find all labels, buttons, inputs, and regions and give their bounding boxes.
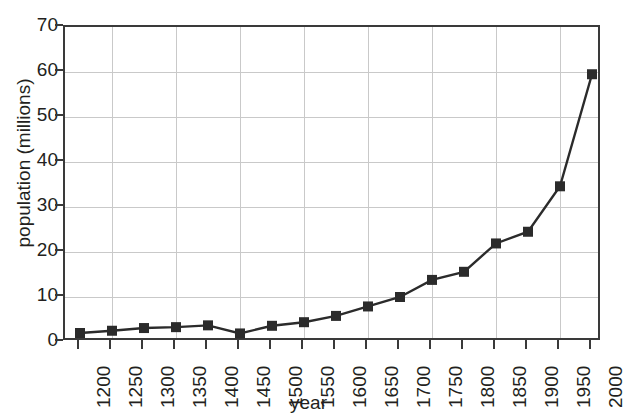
- y-tick-mark: [55, 114, 63, 116]
- x-tick-mark: [589, 340, 591, 349]
- y-tick-mark: [55, 294, 63, 296]
- x-tick-mark: [397, 340, 399, 349]
- data-point-marker: [75, 328, 85, 338]
- x-tick-mark: [173, 340, 175, 349]
- y-axis-tick-marks: [0, 25, 63, 340]
- y-tick-mark: [55, 159, 63, 161]
- x-tick-mark: [237, 340, 239, 349]
- x-tick-mark: [461, 340, 463, 349]
- y-tick-mark: [55, 339, 63, 341]
- x-tick-mark: [77, 340, 79, 349]
- x-axis-label: year: [0, 392, 617, 414]
- data-point-marker: [587, 69, 597, 79]
- x-tick-mark: [109, 340, 111, 349]
- x-tick-mark: [525, 340, 527, 349]
- x-tick-mark: [557, 340, 559, 349]
- data-point-marker: [427, 275, 437, 285]
- population-line-series: [65, 27, 602, 342]
- x-tick-mark: [365, 340, 367, 349]
- x-tick-mark: [429, 340, 431, 349]
- data-point-marker: [555, 181, 565, 191]
- data-point-marker: [395, 292, 405, 302]
- data-point-marker: [203, 320, 213, 330]
- x-tick-mark: [333, 340, 335, 349]
- y-tick-mark: [55, 24, 63, 26]
- data-point-marker: [139, 323, 149, 333]
- x-tick-mark: [493, 340, 495, 349]
- data-point-marker: [523, 227, 533, 237]
- y-tick-mark: [55, 69, 63, 71]
- y-tick-mark: [55, 249, 63, 251]
- x-tick-mark: [269, 340, 271, 349]
- y-tick-mark: [55, 204, 63, 206]
- data-point-marker: [331, 311, 341, 321]
- data-point-marker: [363, 301, 373, 311]
- x-axis-tick-marks: [63, 340, 600, 349]
- x-tick-mark: [141, 340, 143, 349]
- data-point-marker: [107, 326, 117, 336]
- x-tick-mark: [301, 340, 303, 349]
- series-line: [80, 74, 592, 333]
- data-point-marker: [171, 322, 181, 332]
- data-point-marker: [299, 317, 309, 327]
- data-point-marker: [491, 238, 501, 248]
- data-point-marker: [267, 321, 277, 331]
- data-point-marker: [235, 328, 245, 338]
- plot-area: [63, 25, 600, 340]
- x-tick-mark: [205, 340, 207, 349]
- data-point-marker: [459, 267, 469, 277]
